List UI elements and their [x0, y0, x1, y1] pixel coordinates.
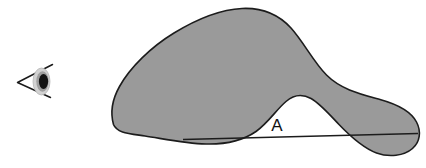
- diagram-svg: A: [0, 0, 426, 168]
- figure-canvas: A: [0, 0, 426, 168]
- eye-pupil-icon: [39, 74, 48, 89]
- region-a-label: A: [271, 116, 283, 135]
